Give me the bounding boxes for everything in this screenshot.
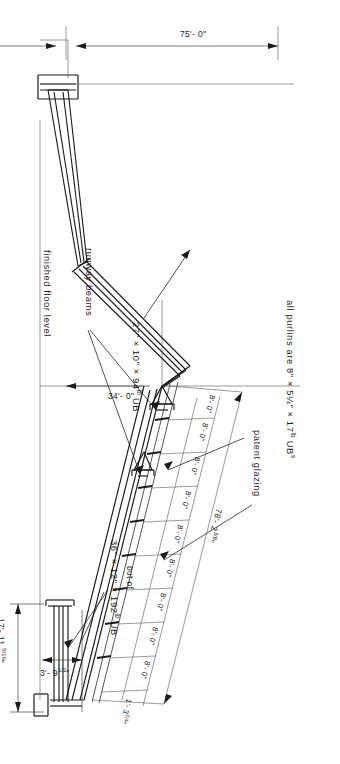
label-purlins-section-sup: s: [290, 455, 297, 458]
label-stanchion-beam: 36" × 12" × 192lb UB: [109, 540, 120, 636]
right-stanchion: [38, 75, 78, 99]
dimension-lines: [40, 40, 300, 700]
label-purlins-lead: all purlins are: [285, 300, 296, 365]
label-purlins-section: UB: [285, 437, 296, 454]
dim-base-depth-feet: 3'- 9: [40, 668, 58, 678]
dim-base-width-frac: 5/16: [1, 648, 7, 659]
label-runway-beams: runway beams: [85, 248, 94, 316]
dim-span-right-upper: 75'- 0": [180, 30, 206, 38]
dim-base-width: [10, 604, 44, 712]
dim-base-depth-frac: 1/2: [58, 667, 66, 673]
label-purlins-size: 8" × 5¼" × 17: [285, 368, 296, 433]
label-stanchion-beam-section: UB: [109, 619, 120, 636]
label-finished-floor-level: finished floor level: [43, 250, 52, 337]
label-rafter-beam-size: 27" × 10" × 94: [131, 322, 142, 390]
right-rafter: [48, 90, 87, 266]
label-purlins: all purlins are 8" × 5¼" × 17lb UBs: [285, 300, 296, 458]
dim-base-depth-inch: ": [66, 668, 69, 678]
drawing-sheet: patent glazing all purlins are 8" × 5¼" …: [0, 0, 340, 764]
label-cut-from: out of: [126, 566, 134, 589]
dim-eaves-height: 34'- 0": [108, 392, 134, 400]
central-valley: [162, 366, 190, 388]
dim-base-width: 17'- 11 5/16": [0, 618, 6, 663]
label-stanchion-beam-size: 36" × 12" × 192: [109, 540, 120, 614]
label-patent-glazing: patent glazing: [253, 430, 262, 497]
dim-base-width-inch: ": [0, 660, 6, 663]
dim-base-depth: 3'- 91/2": [40, 668, 70, 677]
structural-section-drawing: patent glazing all purlins are 8" × 5¼" …: [0, 0, 340, 764]
dim-base-width-feet: 17'- 11: [0, 618, 6, 648]
